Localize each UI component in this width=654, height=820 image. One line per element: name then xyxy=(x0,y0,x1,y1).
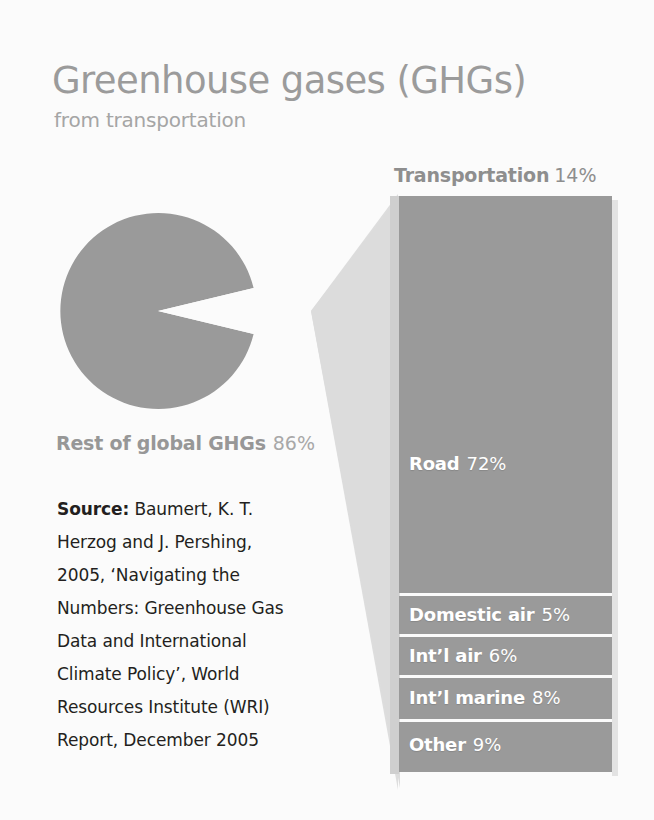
bar-label-intl-air: Int’l air6% xyxy=(409,647,517,665)
source-citation: Source: Baumert, K. T. Herzog and J. Per… xyxy=(57,493,347,757)
source-line: Report, December 2005 xyxy=(57,724,347,757)
source-line: Resources Institute (WRI) xyxy=(57,691,347,724)
bar-label-domestic-air-value: 5% xyxy=(542,604,571,625)
bar-label-intl-marine-value: 8% xyxy=(532,687,561,708)
source-line: Climate Policy’, World xyxy=(57,658,347,691)
bar-label-intl-air-text: Int’l air xyxy=(409,645,482,666)
infographic-page: Greenhouse gases (GHGs) from transportat… xyxy=(0,0,654,820)
bar-label-other-value: 9% xyxy=(473,734,502,755)
bar-label-intl-air-value: 6% xyxy=(489,645,518,666)
source-line: 2005, ‘Navigating the xyxy=(57,559,347,592)
bar-left-shadow xyxy=(390,196,399,774)
bar-label-intl-marine-text: Int’l marine xyxy=(409,687,525,708)
bar-label-other: Other9% xyxy=(409,736,501,754)
bar-segment-road xyxy=(399,196,612,593)
bar-label-road-text: Road xyxy=(409,453,459,474)
bar-right-shadow xyxy=(612,200,618,776)
rest-of-ghgs-label: Rest of global GHGs86% xyxy=(56,434,315,453)
bar-label-road: Road72% xyxy=(409,455,506,473)
source-prefix: Source: xyxy=(57,499,129,519)
rest-of-ghgs-label-text: Rest of global GHGs xyxy=(56,432,266,454)
source-line: Source: Baumert, K. T. xyxy=(57,493,347,526)
source-line: Numbers: Greenhouse Gas xyxy=(57,592,347,625)
source-line: Data and International xyxy=(57,625,347,658)
rest-of-ghgs-label-value: 86% xyxy=(273,432,315,454)
bar-label-road-value: 72% xyxy=(466,453,506,474)
source-line-0: Baumert, K. T. xyxy=(129,499,253,519)
bar-label-other-text: Other xyxy=(409,734,466,755)
source-line: Herzog and J. Pershing, xyxy=(57,526,347,559)
bar-label-domestic-air: Domestic air5% xyxy=(409,606,570,624)
bar-label-intl-marine: Int’l marine8% xyxy=(409,689,561,707)
bar-label-domestic-air-text: Domestic air xyxy=(409,604,535,625)
